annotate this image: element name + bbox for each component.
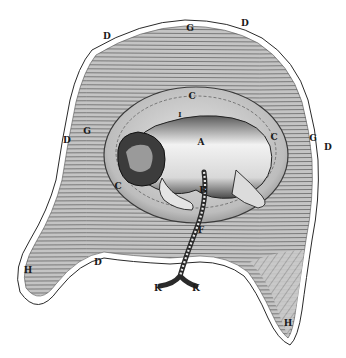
- label-h-left: H: [24, 266, 33, 275]
- label-d-bottom: D: [94, 258, 102, 267]
- uterus-fetus-illustration: [0, 0, 346, 358]
- label-k-right: K: [192, 284, 200, 293]
- label-g-top: G: [186, 24, 194, 33]
- label-g-left: G: [83, 127, 91, 136]
- label-c-left: C: [114, 182, 121, 191]
- label-i-small: I: [178, 111, 181, 118]
- label-d-right: D: [324, 143, 332, 152]
- label-f-cord: F: [198, 226, 204, 235]
- label-a-fetus: A: [198, 138, 205, 147]
- label-g-right: G: [309, 134, 317, 143]
- engraving-figure: D G D D G C I A C G D C B F H D K K H: [0, 0, 346, 358]
- label-h-right: H: [284, 319, 293, 328]
- label-c-right: C: [270, 133, 277, 142]
- label-k-left: K: [154, 284, 162, 293]
- label-d-left: D: [63, 136, 71, 145]
- label-d-top-right: D: [241, 19, 249, 28]
- label-b-cord: B: [199, 186, 207, 195]
- label-d-top-left: D: [103, 32, 111, 41]
- fetus-face-highlight: [126, 145, 153, 172]
- label-c-top: C: [188, 92, 195, 101]
